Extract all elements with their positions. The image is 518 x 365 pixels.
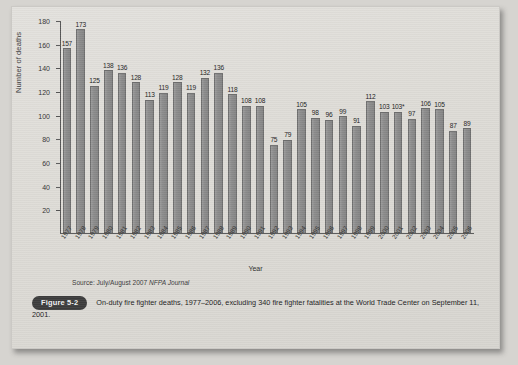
bar-1997 bbox=[339, 116, 348, 233]
bar-value-label-1977: 157 bbox=[62, 40, 72, 47]
bar-item: 105 bbox=[433, 21, 447, 233]
bar-item: 118 bbox=[226, 21, 240, 233]
x-tick-cell: 1994 bbox=[295, 236, 309, 266]
bar-1993 bbox=[283, 140, 292, 233]
x-tick-cell: 1990 bbox=[239, 236, 253, 266]
bar-item: 79 bbox=[281, 21, 295, 233]
x-tick-cell: 1999 bbox=[364, 236, 378, 266]
x-axis-title: Year bbox=[12, 265, 499, 272]
bar-1985 bbox=[173, 82, 182, 233]
bar-chart: Number of deaths 20406080100120140160180… bbox=[12, 7, 499, 277]
bar-value-label-1978: 173 bbox=[75, 21, 85, 28]
x-tick-cell: 2004 bbox=[433, 236, 447, 266]
bar-2000 bbox=[380, 112, 389, 233]
y-axis-title: Number of deaths bbox=[14, 32, 23, 93]
x-tick-cell: 1986 bbox=[184, 236, 198, 266]
bar-1979 bbox=[90, 86, 99, 233]
bar-item: 89 bbox=[460, 21, 474, 233]
bar-1978 bbox=[76, 29, 85, 233]
figure-number-badge: Figure 5-2 bbox=[32, 296, 87, 310]
bar-value-label-1984: 119 bbox=[159, 84, 169, 91]
bar-1989 bbox=[228, 94, 237, 233]
bar-value-label-1998: 91 bbox=[353, 117, 360, 124]
bar-item: 128 bbox=[170, 21, 184, 233]
bar-value-label-1983: 113 bbox=[145, 91, 155, 98]
source-prefix: Source: July/August 2007 bbox=[72, 279, 149, 286]
bar-item: 132 bbox=[198, 21, 212, 233]
bar-item: 138 bbox=[101, 21, 115, 233]
source-publication: NFPA Journal bbox=[149, 279, 189, 286]
x-tick-cell: 2002 bbox=[405, 236, 419, 266]
bar-item: 103* bbox=[391, 21, 405, 233]
x-tick-cell: 1996 bbox=[322, 236, 336, 266]
bar-1995 bbox=[311, 118, 320, 233]
bar-item: 108 bbox=[253, 21, 267, 233]
bar-value-label-1999: 112 bbox=[365, 93, 375, 100]
bar-value-label-1985: 128 bbox=[172, 74, 182, 81]
bar-item: 136 bbox=[115, 21, 129, 233]
bar-2001 bbox=[394, 112, 403, 233]
bar-item: 108 bbox=[239, 21, 253, 233]
bar-item: 87 bbox=[446, 21, 460, 233]
bar-2005 bbox=[449, 131, 458, 233]
bar-1982 bbox=[132, 82, 141, 233]
bar-1992 bbox=[270, 145, 279, 233]
x-tick-cell: 1988 bbox=[212, 236, 226, 266]
bar-item: 96 bbox=[322, 21, 336, 233]
x-tick-cell: 2001 bbox=[391, 236, 405, 266]
x-tick-cell: 1992 bbox=[267, 236, 281, 266]
bar-value-label-1997: 99 bbox=[339, 108, 346, 115]
bar-1983 bbox=[145, 100, 154, 233]
y-tick-label-180: 180 bbox=[38, 18, 50, 25]
page-background: Number of deaths 20406080100120140160180… bbox=[0, 0, 518, 365]
x-tick-cell: 2006 bbox=[460, 236, 474, 266]
bar-1981 bbox=[118, 73, 127, 233]
bar-item: 97 bbox=[405, 21, 419, 233]
x-tick-cell: 1997 bbox=[336, 236, 350, 266]
x-tick-cell: 1981 bbox=[115, 236, 129, 266]
x-tick-cell: 1995 bbox=[308, 236, 322, 266]
x-tick-cell: 1983 bbox=[143, 236, 157, 266]
bar-item: 103 bbox=[377, 21, 391, 233]
bar-item: 157 bbox=[60, 21, 74, 233]
x-tick-cell: 2000 bbox=[377, 236, 391, 266]
bar-1999 bbox=[366, 101, 375, 233]
x-tick-cell: 1991 bbox=[253, 236, 267, 266]
bar-item: 128 bbox=[129, 21, 143, 233]
bar-value-label-1980: 138 bbox=[103, 62, 113, 69]
bar-item: 113 bbox=[143, 21, 157, 233]
bar-item: 119 bbox=[184, 21, 198, 233]
x-tick-cell: 1989 bbox=[226, 236, 240, 266]
x-tick-cell: 1984 bbox=[157, 236, 171, 266]
bar-value-label-2001: 103* bbox=[392, 103, 405, 110]
bar-value-label-1987: 132 bbox=[200, 69, 210, 76]
bar-1986 bbox=[187, 93, 196, 233]
x-tick-cell: 2003 bbox=[419, 236, 433, 266]
bar-value-label-1986: 119 bbox=[186, 84, 196, 91]
bar-2002 bbox=[408, 119, 417, 233]
bar-item: 106 bbox=[419, 21, 433, 233]
y-tick-label-120: 120 bbox=[38, 89, 50, 96]
plot-area: 20406080100120140160180 1571731251381361… bbox=[60, 21, 474, 234]
x-tick-cell: 1979 bbox=[88, 236, 102, 266]
y-tick-label-40: 40 bbox=[42, 183, 50, 190]
bar-value-label-2002: 97 bbox=[408, 110, 415, 117]
x-tick-cell: 1998 bbox=[350, 236, 364, 266]
bar-2003 bbox=[421, 108, 430, 233]
caption-text: On-duty fire fighter deaths, 1977–2006, … bbox=[32, 298, 479, 319]
bar-value-label-2003: 106 bbox=[420, 100, 430, 107]
y-tick-label-80: 80 bbox=[42, 136, 50, 143]
x-tick-cell: 1978 bbox=[74, 236, 88, 266]
bar-value-label-1992: 75 bbox=[270, 136, 277, 143]
bar-1984 bbox=[159, 93, 168, 233]
x-tick-cell: 1982 bbox=[129, 236, 143, 266]
bar-1996 bbox=[325, 120, 334, 233]
bar-1994 bbox=[297, 109, 306, 233]
x-tick-cell: 1993 bbox=[281, 236, 295, 266]
bar-value-label-1995: 98 bbox=[312, 109, 319, 116]
bar-1980 bbox=[104, 70, 113, 233]
x-axis-tick-labels: 1977197819791980198119821983198419851986… bbox=[60, 236, 474, 266]
x-tick-cell: 1985 bbox=[170, 236, 184, 266]
bar-item: 136 bbox=[212, 21, 226, 233]
bar-value-label-1990: 108 bbox=[241, 97, 251, 104]
